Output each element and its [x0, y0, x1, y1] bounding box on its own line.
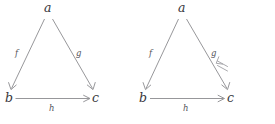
triangle-arrows-left: [0, 0, 138, 124]
figure-root: a b c f g h: [0, 0, 275, 124]
arrow-g-left: [53, 19, 96, 90]
vertex-label-c: c: [227, 92, 234, 105]
natural-transformation-double-arrow-icon: [216, 57, 227, 71]
vertex-label-c: c: [92, 92, 99, 105]
vertex-label-b: b: [5, 92, 13, 105]
arrow-f-left: [9, 19, 45, 90]
vertex-label-a: a: [44, 2, 51, 15]
diagram-triangle-with-natural-transformation: a b c f g h: [138, 0, 275, 124]
arrow-h-left: [16, 95, 91, 101]
edge-label-h: h: [183, 104, 188, 113]
edge-label-g: g: [76, 49, 81, 58]
edge-label-h: h: [49, 104, 54, 113]
arrow-h-right: [150, 95, 225, 101]
vertex-label-b: b: [139, 92, 147, 105]
diagram-plain-triangle: a b c f g h: [0, 0, 138, 124]
arrow-g-right: [187, 19, 230, 90]
edge-label-f: f: [149, 49, 152, 58]
edge-label-f: f: [15, 49, 18, 58]
edge-label-g: g: [211, 49, 216, 58]
vertex-label-a: a: [178, 2, 185, 15]
triangle-arrows-right: [138, 0, 275, 124]
